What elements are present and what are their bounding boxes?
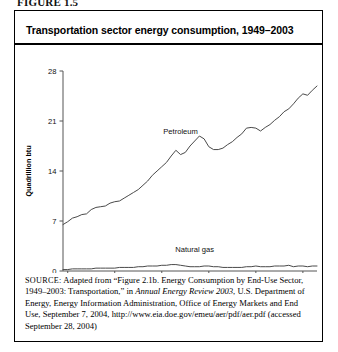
source-prefix: SOURCE:: [25, 276, 62, 285]
source-publication-title: Annual Energy Review 2003: [135, 286, 233, 296]
y-axis-tick-label: 28: [48, 67, 56, 76]
series-line-petroleum: [63, 86, 317, 225]
series-label-petroleum: Petroleum: [163, 127, 198, 136]
source-note: SOURCE: Adapted from “Figure 2.1b. Energ…: [25, 275, 315, 332]
chart-plot-area: 07142128195019601970198019902000Quadrill…: [15, 45, 322, 273]
series-line-natural-gas: [63, 265, 317, 270]
chart-annotations: PetroleumNatural gas: [163, 127, 214, 255]
series-label-natural-gas: Natural gas: [175, 245, 214, 254]
chart-panel: Transportation sector energy consumption…: [14, 10, 323, 342]
y-axis-tick-label: 14: [48, 167, 56, 176]
y-axis-tick-label: 0: [52, 267, 56, 273]
chart-axes: 07142128195019601970198019902000Quadrill…: [24, 67, 317, 273]
figure-number-label: FIGURE 1.5: [17, 0, 78, 6]
chart-series: [63, 86, 317, 270]
line-chart-svg: 07142128195019601970198019902000Quadrill…: [15, 45, 322, 273]
y-axis-title: Quadrillion btu: [24, 145, 33, 196]
y-axis-tick-label: 21: [48, 117, 56, 126]
y-axis-tick-label: 7: [52, 217, 56, 226]
figure-container: FIGURE 1.5 Transportation sector energy …: [0, 0, 338, 352]
chart-title: Transportation sector energy consumption…: [26, 24, 293, 36]
